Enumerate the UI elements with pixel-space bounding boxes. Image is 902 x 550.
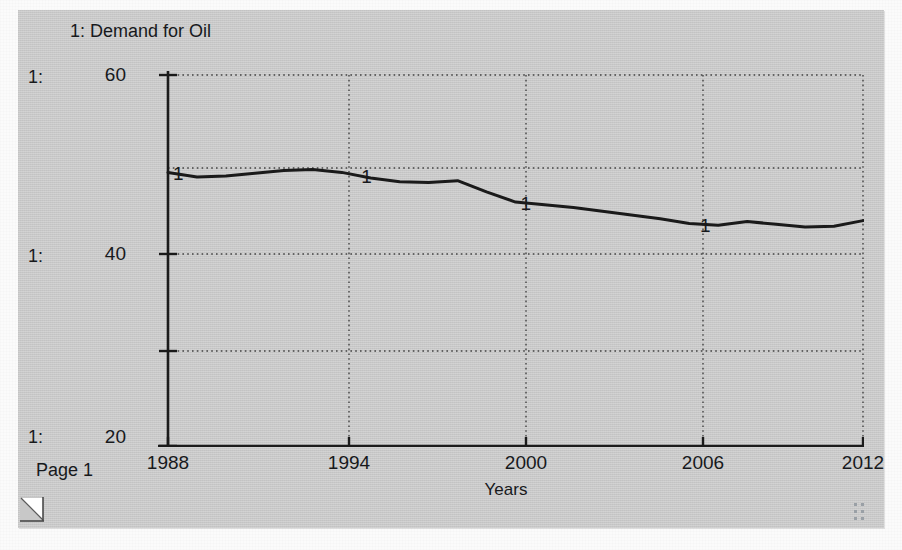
y-tick-label-40: 40 [80, 244, 126, 263]
x-tick-label-1994: 1994 [314, 453, 384, 472]
vertical-gridlines [349, 75, 864, 447]
series-marker-2006: 1 [700, 215, 711, 236]
x-tick-label-2000: 2000 [491, 453, 561, 472]
chart-svg: 1 1 1 1 [150, 65, 864, 447]
x-tick-label-2012: 2012 [828, 453, 898, 472]
axis-ticks [159, 75, 863, 446]
page-curl-resize-icon[interactable] [18, 495, 50, 527]
page-number-label: Page 1 [36, 461, 93, 479]
series-marker-2000: 1 [521, 193, 532, 214]
series-marker-1994: 1 [361, 166, 372, 187]
horizontal-gridlines [168, 75, 864, 351]
screenshot-root: 1: Demand for Oil 1: 1: 1: 60 40 20 [0, 0, 902, 550]
series-gutter-key-middle: 1: [28, 247, 43, 265]
x-tick-label-1988: 1988 [133, 453, 203, 472]
plot-area: 1 1 1 1 [150, 65, 864, 447]
series-gutter-key-top: 1: [28, 68, 43, 86]
graph-window: 1: Demand for Oil 1: 1: 1: 60 40 20 [18, 10, 884, 528]
resize-grip-icon[interactable] [846, 499, 872, 521]
x-tick-label-2006: 2006 [668, 453, 738, 472]
page-title: 1: Demand for Oil [70, 22, 211, 40]
data-line-demand-for-oil [168, 170, 863, 228]
y-tick-label-60: 60 [80, 65, 126, 84]
y-tick-label-20: 20 [80, 427, 126, 446]
x-axis-title: Years [466, 481, 546, 498]
series-gutter-key-bottom: 1: [28, 428, 43, 446]
series-marker-1988: 1 [173, 163, 184, 184]
